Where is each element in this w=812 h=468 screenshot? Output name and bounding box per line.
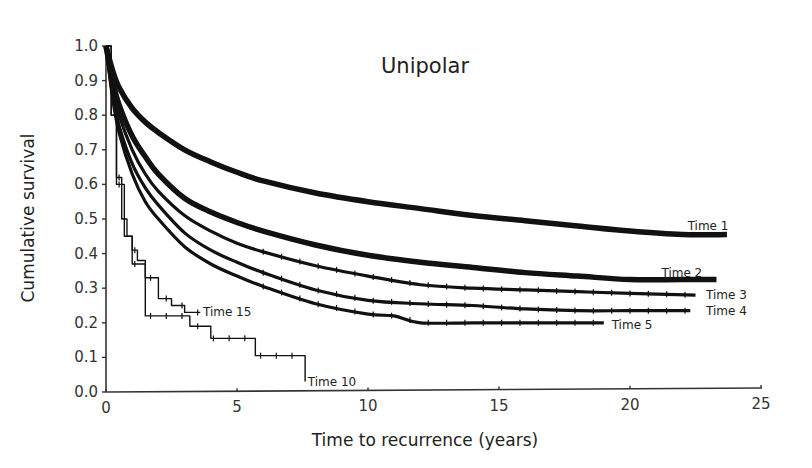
x-tick-label: 0 bbox=[101, 399, 111, 417]
series-label: Time 10 bbox=[307, 375, 356, 389]
y-tick-label: 0.7 bbox=[74, 141, 98, 159]
series-label: Time 15 bbox=[202, 305, 251, 319]
x-tick-label: 10 bbox=[358, 397, 377, 415]
x-tick-label: 5 bbox=[232, 398, 242, 416]
x-tick-label: 20 bbox=[620, 396, 639, 414]
y-tick-label: 0.2 bbox=[74, 314, 98, 332]
survival-curve bbox=[106, 46, 716, 280]
y-ticks: 0.00.10.20.30.40.50.60.70.80.91.0 bbox=[74, 37, 106, 401]
survival-curve bbox=[106, 46, 690, 311]
y-tick-label: 0.4 bbox=[74, 245, 98, 263]
series-labels: Time 1Time 2Time 3Time 4Time 5Time 15Tim… bbox=[202, 219, 747, 389]
survival-curve bbox=[106, 46, 604, 323]
survival-chart: 0.00.10.20.30.40.50.60.70.80.91.0 051015… bbox=[0, 0, 812, 468]
y-tick-label: 0.0 bbox=[74, 383, 98, 401]
y-tick-label: 0.6 bbox=[74, 175, 98, 193]
y-tick-label: 0.5 bbox=[74, 210, 98, 228]
y-tick-label: 0.1 bbox=[74, 348, 98, 366]
series-label: Time 2 bbox=[660, 266, 702, 280]
series-label: Time 4 bbox=[705, 304, 747, 318]
y-tick-label: 0.8 bbox=[74, 106, 98, 124]
x-tick-label: 25 bbox=[751, 395, 770, 413]
series-label: Time 3 bbox=[705, 288, 747, 302]
x-tick-label: 15 bbox=[489, 397, 508, 415]
series-label: Time 5 bbox=[611, 318, 653, 332]
x-axis-line bbox=[106, 388, 762, 392]
series-label: Time 1 bbox=[687, 219, 729, 233]
chart-title: Unipolar bbox=[381, 54, 469, 78]
x-axis-title: Time to recurrence (years) bbox=[311, 430, 538, 450]
y-tick-label: 1.0 bbox=[74, 37, 98, 55]
survival-curve bbox=[106, 46, 305, 382]
y-tick-label: 0.9 bbox=[74, 72, 98, 90]
y-tick-label: 0.3 bbox=[74, 279, 98, 297]
y-axis-title: Cumulative survival bbox=[18, 133, 38, 302]
